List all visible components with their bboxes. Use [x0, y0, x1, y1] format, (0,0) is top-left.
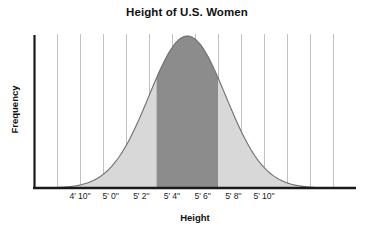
distribution-area-shaded — [34, 36, 356, 188]
x-tick-label: 5' 10'' — [254, 191, 275, 201]
x-axis-label: Height — [34, 212, 356, 223]
x-tick-label: 5' 6'' — [195, 191, 211, 201]
x-tick-label: 4' 10'' — [70, 191, 91, 201]
x-tick-label: 5' 8'' — [225, 191, 241, 201]
x-tick-label: 5' 4'' — [164, 191, 180, 201]
x-tick-label: 5' 0'' — [103, 191, 119, 201]
x-tick-label: 5' 2'' — [133, 191, 149, 201]
chart-container: Height of U.S. Women Frequency 4' 10''5'… — [0, 0, 374, 234]
x-axis-tick-labels: 4' 10''5' 0''5' 2''5' 4''5' 6''5' 8''5' … — [34, 191, 356, 205]
